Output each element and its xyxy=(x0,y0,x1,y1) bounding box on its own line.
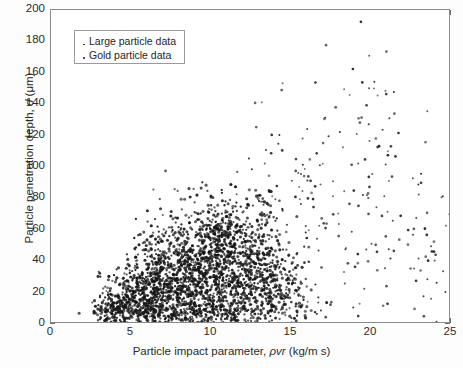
x-tick-mark-top xyxy=(450,10,451,15)
x-tick-label: 25 xyxy=(444,325,457,337)
x-tick-label: 20 xyxy=(364,325,377,337)
x-tick-label: 0 xyxy=(47,325,53,337)
y-tick-label: 0 xyxy=(39,317,45,328)
y-tick-mark xyxy=(50,323,55,324)
legend-label-large-particle: Large particle data xyxy=(89,35,176,47)
y-axis-label: Particle penetration depth, d (μm) xyxy=(23,33,35,283)
x-axis-label-post: (kg/m s) xyxy=(286,345,331,357)
x-axis-label-pre: Particle impact parameter, xyxy=(133,345,270,357)
legend-item-large-particle: Large particle data xyxy=(79,34,184,48)
legend-box: Large particle data Gold particle data xyxy=(74,30,185,64)
y-axis-label-pre: Particle penetration depth, xyxy=(23,106,35,243)
x-tick-label: 15 xyxy=(284,325,297,337)
x-tick-mark xyxy=(450,318,451,323)
legend-marker-dot-small-icon xyxy=(79,35,89,47)
x-tick-label: 10 xyxy=(204,325,217,337)
x-axis-label: Particle impact parameter, ρvr (kg/m s) xyxy=(0,345,463,357)
y-tick-label: 200 xyxy=(26,3,45,14)
y-axis-label-symbol: d xyxy=(23,100,35,106)
y-axis-label-post: (μm) xyxy=(23,73,35,100)
x-tick-label: 5 xyxy=(127,325,133,337)
scatter-plot-figure: 020406080100120140160180200 0510152025 L… xyxy=(0,0,463,368)
y-tick-label: 20 xyxy=(32,286,45,297)
legend-marker-dot-icon xyxy=(79,49,89,61)
y-tick-mark-right xyxy=(445,323,450,324)
legend-item-gold-particle: Gold particle data xyxy=(79,48,184,62)
x-axis-label-symbol: ρvr xyxy=(269,345,285,357)
legend-label-gold-particle: Gold particle data xyxy=(89,49,171,61)
